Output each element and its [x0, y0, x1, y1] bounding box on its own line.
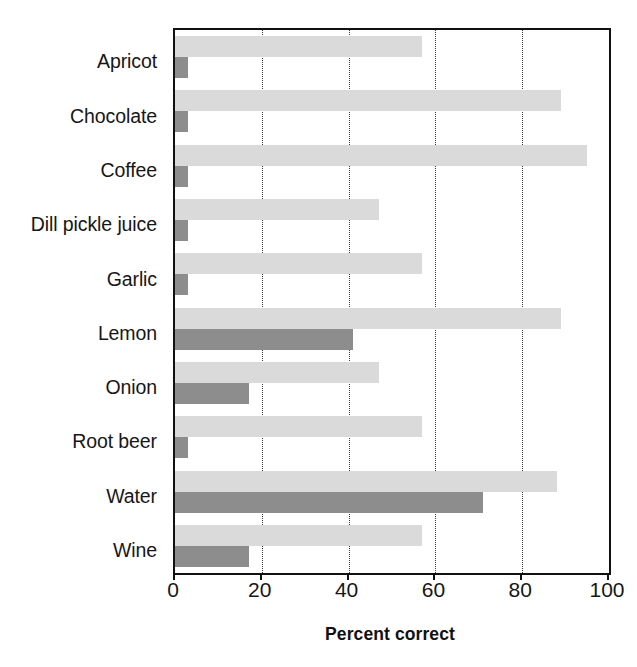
bar-groups	[175, 30, 609, 573]
bar-light-bar	[175, 525, 422, 546]
category-label-cell: Root beer	[0, 408, 166, 462]
category-label-cell: Water	[0, 462, 166, 516]
category-label: Garlic	[107, 270, 157, 290]
bar-group	[175, 301, 609, 355]
x-tick-label: 20	[248, 578, 271, 602]
bar-light-bar	[175, 253, 422, 274]
bar-group	[175, 519, 609, 573]
bar-light-bar	[175, 90, 561, 111]
category-axis-labels: ApricotChocolateCoffeeDill pickle juiceG…	[0, 28, 166, 571]
category-label: Water	[106, 487, 157, 507]
category-label: Coffee	[100, 161, 157, 181]
category-label-cell: Apricot	[0, 28, 166, 82]
x-tick-label: 100	[589, 578, 624, 602]
bar-dark-bar	[175, 437, 188, 458]
bar-group	[175, 139, 609, 193]
category-label-cell: Lemon	[0, 299, 166, 353]
category-label: Root beer	[72, 432, 157, 452]
bar-group	[175, 84, 609, 138]
bar-light-bar	[175, 308, 561, 329]
bar-light-bar	[175, 145, 587, 166]
bar-dark-bar	[175, 111, 188, 132]
bar-dark-bar	[175, 492, 483, 513]
bar-chart-figure: ApricotChocolateCoffeeDill pickle juiceG…	[0, 0, 637, 667]
bar-light-bar	[175, 36, 422, 57]
bar-light-bar	[175, 416, 422, 437]
category-label: Chocolate	[70, 107, 157, 127]
bar-dark-bar	[175, 329, 353, 350]
category-label-cell: Onion	[0, 354, 166, 408]
category-label-cell: Dill pickle juice	[0, 191, 166, 245]
x-tick-label: 80	[509, 578, 532, 602]
bar-group	[175, 247, 609, 301]
category-label-cell: Wine	[0, 517, 166, 571]
plot-area	[173, 28, 611, 575]
category-label-cell: Chocolate	[0, 82, 166, 136]
bar-dark-bar	[175, 220, 188, 241]
plot-inner	[175, 30, 609, 573]
x-axis-title: Percent correct	[173, 624, 607, 645]
x-tick-label: 40	[335, 578, 358, 602]
x-tick-label: 60	[422, 578, 445, 602]
category-label: Dill pickle juice	[31, 215, 157, 235]
bar-light-bar	[175, 362, 379, 383]
bar-dark-bar	[175, 274, 188, 295]
bar-group	[175, 410, 609, 464]
bar-dark-bar	[175, 383, 249, 404]
bar-group	[175, 193, 609, 247]
category-label: Lemon	[98, 324, 157, 344]
bar-dark-bar	[175, 546, 249, 567]
bar-light-bar	[175, 471, 557, 492]
bar-group	[175, 464, 609, 518]
category-label-cell: Garlic	[0, 245, 166, 299]
bar-group	[175, 30, 609, 84]
category-label-cell: Coffee	[0, 137, 166, 191]
bar-dark-bar	[175, 166, 188, 187]
bar-light-bar	[175, 199, 379, 220]
category-label: Onion	[105, 378, 157, 398]
x-tick-label: 0	[167, 578, 179, 602]
category-label: Wine	[113, 541, 157, 561]
x-axis-tick-labels: 020406080100	[173, 578, 607, 608]
bar-dark-bar	[175, 57, 188, 78]
bar-group	[175, 356, 609, 410]
category-label: Apricot	[97, 52, 157, 72]
